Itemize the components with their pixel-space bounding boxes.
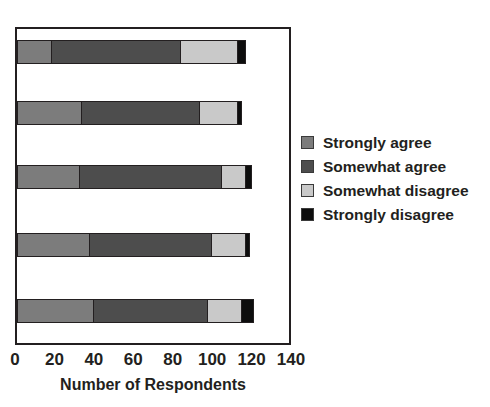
x-tick-label: 80 xyxy=(163,349,182,371)
bar-segment xyxy=(82,101,200,125)
x-tick-label: 40 xyxy=(84,349,103,371)
bar-segment xyxy=(94,299,208,323)
legend-item: Strongly disagree xyxy=(301,203,487,226)
bar-segment xyxy=(208,299,242,323)
bar-segment xyxy=(80,165,222,189)
bar-segment xyxy=(222,165,246,189)
bar-segment xyxy=(212,233,246,257)
legend-swatch-icon xyxy=(301,136,314,149)
bar-segment xyxy=(238,101,242,125)
plot-area xyxy=(15,27,291,345)
legend-label: Somewhat agree xyxy=(323,155,446,178)
legend-swatch-icon xyxy=(301,184,314,197)
bars-container xyxy=(17,29,289,343)
bar-segment xyxy=(52,40,180,64)
x-axis-title: Number of Respondents xyxy=(15,376,291,394)
bar-row xyxy=(17,299,254,323)
bar-row xyxy=(17,40,246,64)
legend-item: Somewhat agree xyxy=(301,155,487,178)
bar-segment xyxy=(242,299,254,323)
legend-label: Strongly disagree xyxy=(323,203,454,226)
bar-segment xyxy=(17,233,90,257)
bar-row xyxy=(17,101,242,125)
x-tick-label: 20 xyxy=(45,349,64,371)
bar-segment xyxy=(200,101,237,125)
legend-item: Strongly agree xyxy=(301,131,487,154)
bar-segment xyxy=(90,233,212,257)
bar-row xyxy=(17,233,250,257)
bar-segment xyxy=(238,40,246,64)
x-tick-label: 0 xyxy=(10,349,19,371)
x-tick-label: 60 xyxy=(124,349,143,371)
legend-label: Strongly agree xyxy=(323,131,432,154)
bar-segment xyxy=(17,165,80,189)
bar-segment xyxy=(17,101,82,125)
bar-segment xyxy=(246,165,252,189)
bar-segment xyxy=(246,233,250,257)
bar-segment xyxy=(17,40,52,64)
legend-swatch-icon xyxy=(301,208,314,221)
bar-segment xyxy=(181,40,238,64)
x-tick-label: 120 xyxy=(237,349,265,371)
chart-legend: Strongly agreeSomewhat agreeSomewhat dis… xyxy=(301,131,487,227)
legend-swatch-icon xyxy=(301,160,314,173)
x-axis-ticks: 020406080100120140 xyxy=(15,349,291,371)
x-tick-label: 140 xyxy=(277,349,305,371)
bar-segment xyxy=(17,299,94,323)
x-tick-label: 100 xyxy=(198,349,226,371)
legend-item: Somewhat disagree xyxy=(301,179,487,202)
legend-label: Somewhat disagree xyxy=(323,179,469,202)
bar-row xyxy=(17,165,252,189)
stacked-bar-chart: 020406080100120140 Number of Respondents… xyxy=(0,0,490,407)
